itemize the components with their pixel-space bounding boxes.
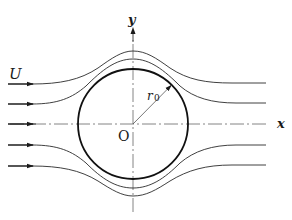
label-x-axis: x (276, 116, 285, 131)
streamline-bottom-outer (8, 165, 266, 196)
label-free-stream-U: U (9, 65, 23, 83)
label-origin: O (118, 128, 129, 144)
streamlines-upper (8, 51, 266, 104)
streamlines-lower (8, 145, 266, 196)
streamline-top-outer (8, 51, 266, 84)
diagram-canvas: U y x O r 0 (0, 0, 292, 220)
label-radius: r (147, 89, 154, 103)
label-y-axis: y (127, 12, 137, 27)
streamline-top-inner (8, 59, 266, 104)
flow-diagram: U y x O r 0 (0, 0, 292, 220)
label-radius-subscript: 0 (154, 93, 160, 103)
upstream-arrows (8, 84, 33, 166)
